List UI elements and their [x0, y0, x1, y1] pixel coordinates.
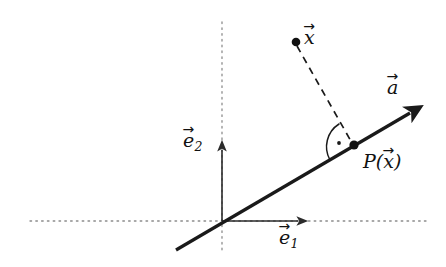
vector-arrow-icon: → — [386, 69, 397, 83]
label-basis-vector-e1: →e 1 — [279, 228, 298, 250]
projection-function-name: P — [363, 150, 376, 172]
label-vector-x: →x — [304, 28, 315, 47]
projection-diagram: →x →a P(→x) →e 2 →e 1 — [0, 0, 446, 267]
dashed-projection-segment — [297, 46, 352, 143]
label-projection-of-x: P(→x) — [363, 152, 401, 171]
diagram-canvas — [0, 0, 446, 267]
e1-subscript: 1 — [291, 236, 299, 251]
label-basis-vector-e2: →e 2 — [183, 131, 202, 153]
e2-subscript: 2 — [195, 139, 203, 154]
right-angle-dot — [337, 141, 341, 145]
vector-arrow-icon: → — [182, 122, 193, 136]
vector-arrow-icon: → — [382, 143, 393, 157]
point-x — [292, 38, 301, 47]
vector-arrow-icon: → — [303, 19, 314, 33]
point-projection — [349, 140, 358, 149]
projection-close-paren: ) — [394, 150, 401, 172]
vector-arrow-icon: → — [278, 219, 289, 233]
label-vector-a: →a — [387, 78, 398, 97]
